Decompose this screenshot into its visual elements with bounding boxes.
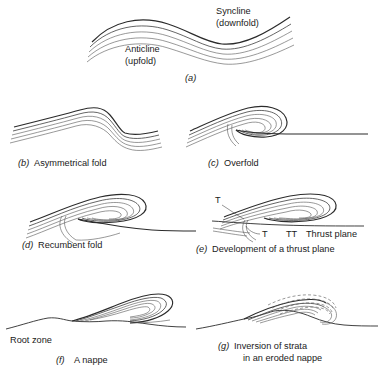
stratum-e-lower-truncated-2 (213, 231, 247, 236)
anticline-label: Anticline (125, 44, 160, 54)
stratum-g-3 (252, 306, 321, 321)
panel-e-caption: Development of a thrust plane (212, 244, 335, 254)
panel-c-tag: (c) (208, 158, 219, 168)
stratum-a-5 (87, 44, 294, 64)
panel-e-tag: (e) (196, 244, 207, 254)
panel-f-tag: (f) (56, 355, 65, 365)
panel-g-diagram (196, 295, 378, 329)
panel-d-caption: Recumbent fold (38, 240, 102, 250)
panel-b-diagram (10, 108, 162, 151)
panel-d-diagram (26, 194, 196, 243)
panel-g-erosion-surface (274, 310, 378, 326)
thrust-plane-label: Thrust plane (306, 229, 357, 239)
panel-g-caption-line2: in an eroded nappe (243, 353, 322, 363)
stratum-a-4 (88, 38, 293, 59)
stratum-e-lower-truncated (213, 228, 250, 233)
stratum-e-1 (224, 194, 336, 222)
panel-b-caption: Asymmetrical fold (34, 158, 107, 168)
syncline-label: Syncline (216, 6, 251, 16)
stratum-c-overturned-limb (236, 130, 368, 134)
panel-c-diagram (186, 106, 368, 147)
root-zone-label: Root zone (10, 335, 52, 345)
panel-d-tag: (d) (22, 240, 33, 250)
stratum-f-2 (76, 297, 166, 321)
panel-c-caption: Overfold (224, 158, 259, 168)
panel-f-caption: A nappe (74, 355, 108, 365)
anticline-sublabel: (upfold) (125, 56, 156, 66)
stratum-f-1 (72, 294, 173, 323)
panel-f-ground-surface-right (106, 321, 186, 327)
panel-g-tag: (g) (218, 341, 229, 351)
panel-f-diagram (6, 294, 186, 329)
syncline-sublabel: (downfold) (216, 18, 259, 28)
stratum-g-5 (260, 312, 315, 323)
thrust-tt-label: TT (286, 229, 298, 239)
stratum-b-1 (14, 108, 158, 135)
panel-g-caption-line1: Inversion of strata (234, 341, 308, 351)
panel-b-tag: (b) (18, 158, 29, 168)
panel-a-tag: (a) (185, 73, 196, 83)
fold-structures-figure: Syncline (downfold) Anticline (upfold) (… (0, 0, 385, 372)
panel-a-diagram (87, 17, 294, 64)
thrust-t-upper-label: T (215, 195, 221, 205)
thrust-t-lower-label: T (262, 229, 268, 239)
stratum-a-2 (90, 24, 291, 49)
